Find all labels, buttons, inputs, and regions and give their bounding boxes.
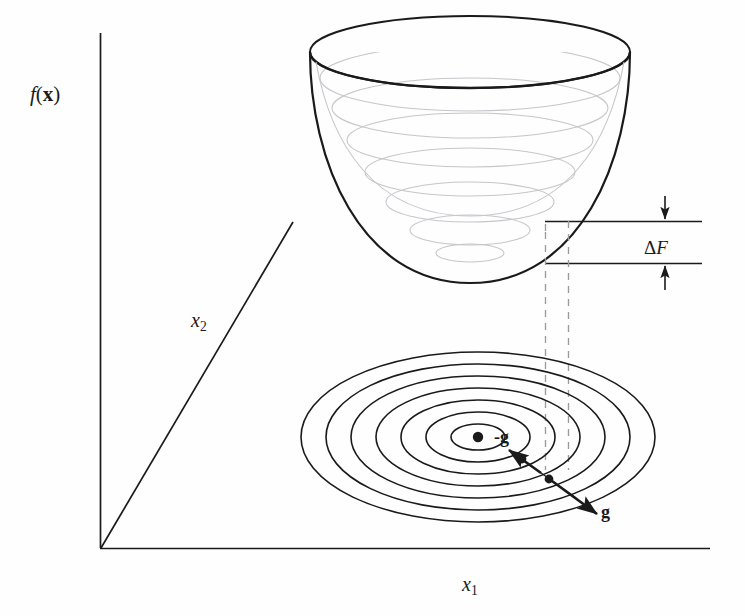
gradient-label: g	[601, 503, 610, 521]
bowl-contour-4	[365, 148, 575, 196]
projection-lines	[546, 221, 569, 470]
neg-gradient-label: -g	[494, 428, 509, 446]
bowl-contour-7	[436, 244, 504, 262]
bowl-surface	[310, 16, 630, 283]
axis-label-x1-var: x	[462, 573, 471, 595]
diagram-svg	[0, 0, 745, 616]
contour-minimum-dot	[473, 432, 483, 442]
gradient-step-dot-2	[545, 475, 554, 484]
axis-label-paren-open: (	[36, 82, 43, 106]
bowl-rim-front-arc	[310, 52, 630, 88]
delta-f-symbol: F	[656, 237, 668, 258]
bowl-interior-contours	[320, 45, 620, 262]
bowl-contour-6	[410, 215, 530, 245]
delta-symbol: Δ	[644, 237, 656, 258]
axis-label-x2: x2	[191, 310, 207, 333]
axis-label-paren-close: )	[53, 82, 60, 106]
bowl-inner-lip	[316, 62, 624, 216]
contour-plot	[301, 352, 655, 522]
axis-label-vector-x: x	[43, 82, 54, 106]
depth-axis-line	[101, 222, 293, 548]
axis-label-x1-sub: 1	[471, 583, 478, 598]
figure-canvas: f(x) x2 x1 ΔF -g g	[0, 0, 745, 616]
gradient-step-dot-1	[518, 455, 527, 464]
axis-label-x2-sub: 2	[200, 319, 207, 334]
axis-label-f-of-x: f(x)	[30, 84, 60, 105]
axis-label-x1: x1	[462, 574, 478, 597]
bowl-contour-3	[347, 113, 593, 167]
delta-f-label: ΔF	[644, 238, 668, 257]
axis-label-x2-var: x	[191, 309, 200, 331]
